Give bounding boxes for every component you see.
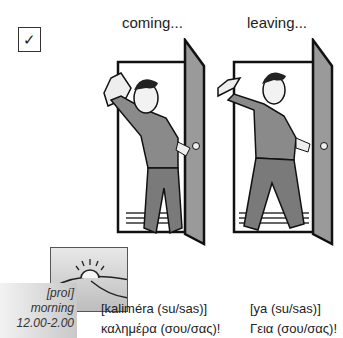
goodbye-greek: Γεια (σου/σας)! xyxy=(250,319,337,338)
man-entering-door-illustration xyxy=(86,38,216,250)
man-leaving-door-illustration xyxy=(214,38,343,250)
hello-greek: καλημέρα (σου/σας)! xyxy=(101,319,220,338)
time-hours: 12.00-2.00 xyxy=(0,316,74,331)
time-english: morning xyxy=(0,301,74,316)
caption-leaving: leaving... xyxy=(247,14,307,31)
caption-coming: coming... xyxy=(122,14,183,31)
hello-transliteration: [kaliméra (su/sas)] xyxy=(101,299,220,319)
greeting-hello: [kaliméra (su/sas)] καλημέρα (σου/σας)! xyxy=(101,299,220,338)
time-transliteration: [proí] xyxy=(0,286,74,301)
goodbye-transliteration: [ya (su/sas)] xyxy=(250,299,337,319)
greeting-goodbye: [ya (su/sas)] Γεια (σου/σας)! xyxy=(250,299,337,338)
checkbox[interactable]: ✓ xyxy=(18,27,41,52)
checkmark-icon: ✓ xyxy=(23,32,36,47)
time-of-day-label: [proí] morning 12.00-2.00 xyxy=(0,283,77,338)
